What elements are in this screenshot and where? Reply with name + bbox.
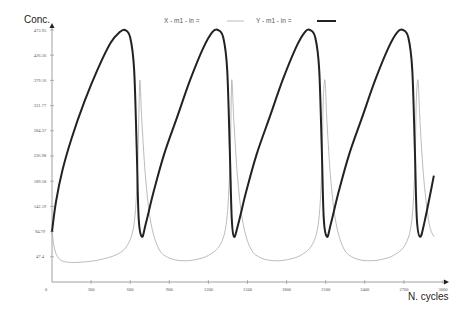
y-tick-label: 473.95 — [34, 28, 47, 33]
y-tick-label: 142.19 — [34, 204, 47, 209]
x-tick-label: 2100 — [321, 287, 331, 292]
x-axis-arrow-icon — [444, 280, 449, 285]
y-ticks: 47.494.79142.19189.58236.98284.37331.773… — [34, 28, 54, 260]
legend-label-x: X - m1 - in = — [164, 17, 200, 24]
y-tick-label: 236.98 — [34, 153, 47, 158]
x-tick-label: 900 — [166, 287, 174, 292]
legend: X - m1 - in = Y - m1 - in = — [164, 17, 336, 24]
y-tick-label: 94.79 — [35, 229, 46, 234]
y-tick-label: 189.58 — [34, 179, 47, 184]
series-group — [52, 29, 434, 262]
x-tick-label: 300 — [88, 287, 96, 292]
legend-label-y: Y - m1 - in = — [256, 17, 292, 24]
y-axis-arrow-icon — [50, 23, 55, 28]
line-chart: 47.494.79142.19189.58236.98284.37331.773… — [0, 0, 467, 311]
y-axis-title: Conc. — [24, 14, 50, 25]
y-tick-label: 284.37 — [34, 128, 47, 133]
y-tick-label: 331.77 — [34, 103, 47, 108]
y-tick-label: 379.16 — [34, 78, 47, 83]
origin-label: 0 — [45, 287, 48, 292]
series-x-line — [52, 80, 434, 263]
x-axis-title: N. cycles — [408, 291, 449, 302]
y-tick-label: 47.4 — [36, 254, 45, 259]
series-y-line — [52, 29, 434, 236]
x-tick-label: 1200 — [204, 287, 214, 292]
x-tick-label: 1800 — [282, 287, 292, 292]
x-tick-label: 2400 — [360, 287, 370, 292]
y-tick-label: 426.56 — [34, 53, 47, 58]
x-tick-label: 600 — [127, 287, 135, 292]
x-tick-label: 1500 — [243, 287, 253, 292]
